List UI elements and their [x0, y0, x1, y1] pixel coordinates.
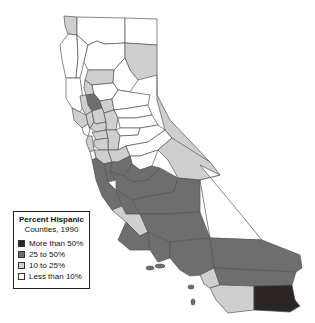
swatch-more-than-50 [18, 240, 25, 247]
county-sf-sanmateo [86, 136, 94, 152]
legend-item-more-than-50: More than 50% [18, 238, 85, 249]
county-inyo-east [200, 165, 262, 240]
swatch-25-to-50 [18, 251, 25, 258]
county-imperial [254, 285, 300, 312]
county-humboldt [60, 34, 78, 78]
island-san-clemente [191, 299, 195, 305]
island-santa-rosa [146, 266, 154, 270]
swatch-less-than-10 [18, 273, 25, 280]
legend-subtitle: Counties, 1990 [18, 225, 85, 235]
legend-label: Less than 10% [29, 272, 82, 281]
legend-label: 10 to 25% [29, 261, 65, 270]
county-los-angeles [170, 238, 214, 276]
legend-title: Percent Hispanic [18, 215, 85, 225]
legend-item-10-to-25: 10 to 25% [18, 260, 85, 271]
county-alameda [94, 138, 108, 150]
legend-item-25-to-50: 25 to 50% [18, 249, 85, 260]
county-san-bernardino [210, 238, 302, 272]
legend-item-less-than-10: Less than 10% [18, 271, 85, 282]
county-modoc [125, 18, 157, 45]
county-del-norte [64, 16, 77, 35]
county-siskiyou [77, 17, 125, 45]
legend-label: More than 50% [29, 239, 83, 248]
county-san-diego [210, 285, 254, 313]
county-mendocino [66, 78, 84, 112]
map-legend: Percent Hispanic Counties, 1990 More tha… [13, 211, 90, 289]
island-santa-catalina [188, 285, 194, 289]
legend-label: 25 to 50% [29, 250, 65, 259]
swatch-10-to-25 [18, 262, 25, 269]
island-santa-cruz [155, 264, 165, 268]
